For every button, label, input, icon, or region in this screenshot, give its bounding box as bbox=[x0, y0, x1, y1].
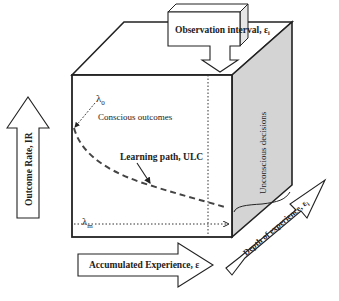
accumulated-experience-arrow: Accumulated Experience, ε bbox=[78, 243, 213, 287]
outcome-rate-arrow: Outcome Rate, IR bbox=[7, 97, 49, 218]
learning-curve-diagram: Observation interval, εi λ0 Conscious ou… bbox=[0, 0, 339, 301]
accumulated-experience-label: Accumulated Experience, ε bbox=[89, 260, 199, 270]
outcome-rate-label: Outcome Rate, IR bbox=[24, 132, 34, 206]
unconscious-decisions-label: Unconscious decisions bbox=[258, 111, 268, 194]
learning-path-label: Learning path, ULC bbox=[120, 152, 203, 162]
conscious-outcomes-label: Conscious outcomes bbox=[98, 112, 173, 122]
observation-interval-label: Observation interval, ε bbox=[175, 25, 268, 35]
svg-text:Observation interval, εi: Observation interval, εi bbox=[175, 25, 270, 36]
